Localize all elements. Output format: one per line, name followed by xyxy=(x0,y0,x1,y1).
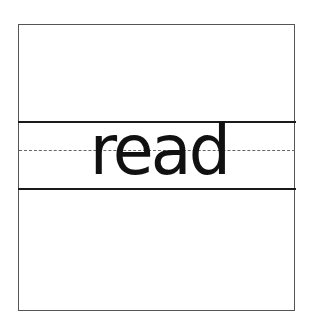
practice-word: read xyxy=(84,100,234,200)
word-text: read xyxy=(90,100,228,200)
